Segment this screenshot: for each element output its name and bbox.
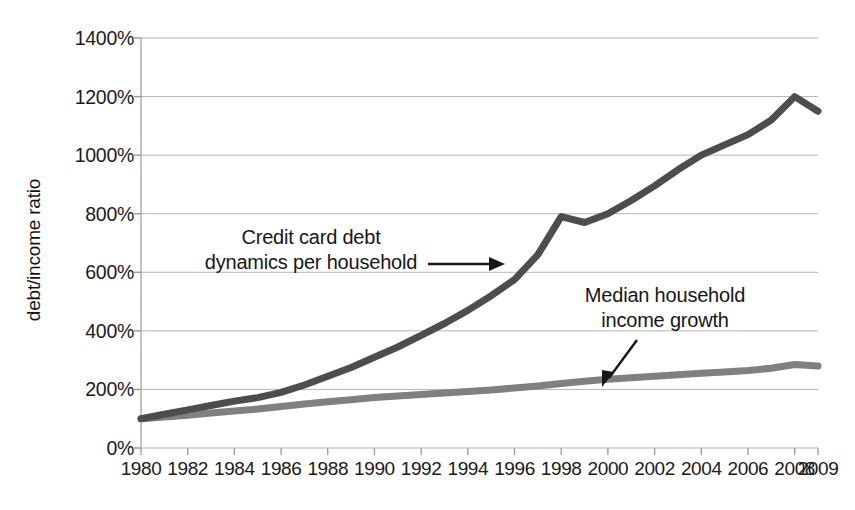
y-axis-tick-label: 0% [14, 437, 134, 460]
x-axis-tick-label: 2006 [728, 458, 769, 480]
x-axis-tick-label: 1990 [354, 458, 395, 480]
x-axis-tick-label: 2004 [681, 458, 722, 480]
y-axis-title: debt/income ratio [23, 150, 45, 350]
x-axis-tick-label: 1984 [214, 458, 255, 480]
x-axis-tick-label: 1986 [261, 458, 302, 480]
median-income-annotation: Median household income growth [560, 283, 770, 333]
x-axis-tick-label: 1980 [121, 458, 162, 480]
y-axis-tick-label: 1400% [14, 27, 134, 50]
x-axis-tick-label: 2002 [634, 458, 675, 480]
median-income-annotation-line1: Median household [560, 283, 770, 308]
y-axis-title-wrap: debt/income ratio [2, 155, 36, 355]
median-income-annotation-line2: income growth [560, 308, 770, 333]
x-axis-tick-label: 1992 [401, 458, 442, 480]
series-line-median-household-income [141, 365, 818, 419]
x-axis-tick-label: 2009 [798, 458, 839, 480]
credit-card-debt-annotation-line1: Credit card debt [186, 225, 436, 250]
x-axis-tick-label: 2000 [588, 458, 629, 480]
x-axis-tick-label: 1998 [541, 458, 582, 480]
credit-card-debt-arrow [428, 257, 505, 271]
y-axis-tick-label: 200% [14, 378, 134, 401]
x-axis-ticks [141, 448, 818, 455]
x-axis-tick-label: 1982 [167, 458, 208, 480]
x-axis-tick-label: 1988 [307, 458, 348, 480]
credit-card-debt-annotation-line2: dynamics per household [186, 250, 436, 275]
y-axis-tick-label: 1200% [14, 85, 134, 108]
x-axis-tick-label: 1994 [447, 458, 488, 480]
credit-card-debt-annotation: Credit card debt dynamics per household [186, 225, 436, 275]
chart-container: 0%200%400%600%800%1000%1200%1400% debt/i… [0, 0, 855, 510]
x-axis-tick-label: 1996 [494, 458, 535, 480]
